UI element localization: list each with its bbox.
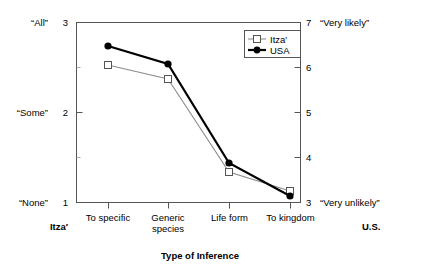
left-axis-anchor-some: “Some” bbox=[0, 107, 48, 118]
right-axis-tick-label-3: 3 bbox=[306, 197, 311, 208]
chart-canvas bbox=[0, 0, 432, 276]
right-axis-anchor-very-unlikely: “Very unlikely” bbox=[320, 197, 380, 208]
legend-label-itza: Itza′ bbox=[270, 34, 287, 45]
x-axis-label-species: species bbox=[133, 223, 203, 234]
data-point-usa-0 bbox=[104, 42, 111, 49]
right-axis-tick-label-7: 7 bbox=[306, 17, 311, 28]
series-line-usa bbox=[108, 46, 290, 196]
left-axis-group-label: Itza′ bbox=[0, 221, 68, 232]
right-axis-tick-label-6: 6 bbox=[306, 62, 311, 73]
legend-marker-itza bbox=[254, 36, 261, 43]
left-axis-tick-label-2: 2 bbox=[50, 107, 68, 118]
left-axis-anchor-none: “None” bbox=[0, 197, 48, 208]
data-point-usa-3 bbox=[286, 192, 293, 199]
right-axis-tick-label-5: 5 bbox=[306, 107, 311, 118]
data-point-itza-0 bbox=[105, 62, 112, 69]
series-line-itza bbox=[108, 65, 290, 191]
x-axis-title: Type of Inference bbox=[120, 250, 280, 261]
data-point-itza-2 bbox=[226, 169, 233, 176]
left-axis-anchor-all: “All” bbox=[0, 17, 48, 28]
right-axis-tick-label-4: 4 bbox=[306, 152, 311, 163]
data-point-usa-2 bbox=[225, 159, 232, 166]
x-axis-label-to-kingdom: To kingdom bbox=[248, 212, 333, 223]
left-axis-tick-label-1: 1 bbox=[50, 197, 68, 208]
data-point-itza-1 bbox=[165, 76, 172, 83]
figure: 3 2 1 “All” “Some” “None” Itza′ 7 6 5 4 … bbox=[0, 0, 432, 276]
right-axis-group-label: U.S. bbox=[362, 221, 380, 232]
legend-label-usa: USA bbox=[270, 45, 290, 56]
legend-marker-usa bbox=[254, 47, 261, 54]
data-point-usa-1 bbox=[164, 60, 171, 67]
right-axis-anchor-very-likely: “Very likely” bbox=[320, 17, 369, 28]
left-axis-tick-label-3: 3 bbox=[50, 17, 68, 28]
